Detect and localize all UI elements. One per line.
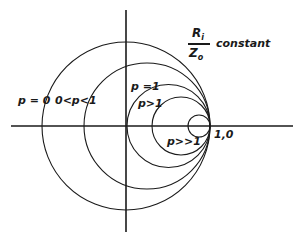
label-p-much-greater-1: p>>1 [167,136,201,147]
label-tangent-point: 1,0 [214,129,234,140]
title-numerator: Ri [192,26,204,42]
title-denominator: Zo [189,46,203,62]
constant-resistance-diagram: Ri Zo constant p = 0 0<p<1 p =1 p>1 p>>1… [0,0,300,244]
label-p-equals-1: p =1 [131,81,160,92]
title-suffix: constant [216,37,270,50]
label-p-between-0-1: 0<p<1 [55,95,97,106]
label-p-equals-0: p = 0 [18,95,50,106]
label-p-greater-1: p>1 [138,98,163,109]
fraction-bar [188,43,210,45]
